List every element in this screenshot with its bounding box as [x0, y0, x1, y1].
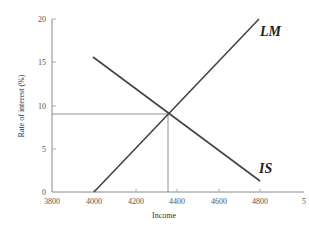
y-tick-10: 10 — [38, 102, 46, 111]
x-axis-label: Income — [152, 211, 176, 220]
is-label: IS — [258, 161, 272, 176]
y-ticks: 20 15 10 5 0 — [38, 15, 56, 197]
x-tick-5000: 5 — [302, 197, 306, 206]
is-curve — [93, 57, 260, 181]
y-tick-5: 5 — [42, 145, 46, 154]
y-axis-label: Rate of interest (%) — [17, 74, 26, 137]
x-tick-4000: 4000 — [86, 197, 102, 206]
x-tick-3800: 3800 — [44, 197, 60, 206]
x-tick-4800: 4800 — [252, 197, 268, 206]
lm-curve — [94, 19, 259, 192]
lm-label: LM — [259, 24, 282, 39]
x-tick-4600: 4600 — [211, 197, 227, 206]
y-tick-0: 0 — [42, 188, 46, 197]
x-tick-4400: 4400 — [169, 197, 185, 206]
y-tick-15: 15 — [38, 58, 46, 67]
islm-chart: 20 15 10 5 0 3800 4000 4200 4400 4600 48… — [0, 0, 309, 226]
x-tick-4200: 4200 — [128, 197, 144, 206]
y-tick-20: 20 — [38, 15, 46, 24]
